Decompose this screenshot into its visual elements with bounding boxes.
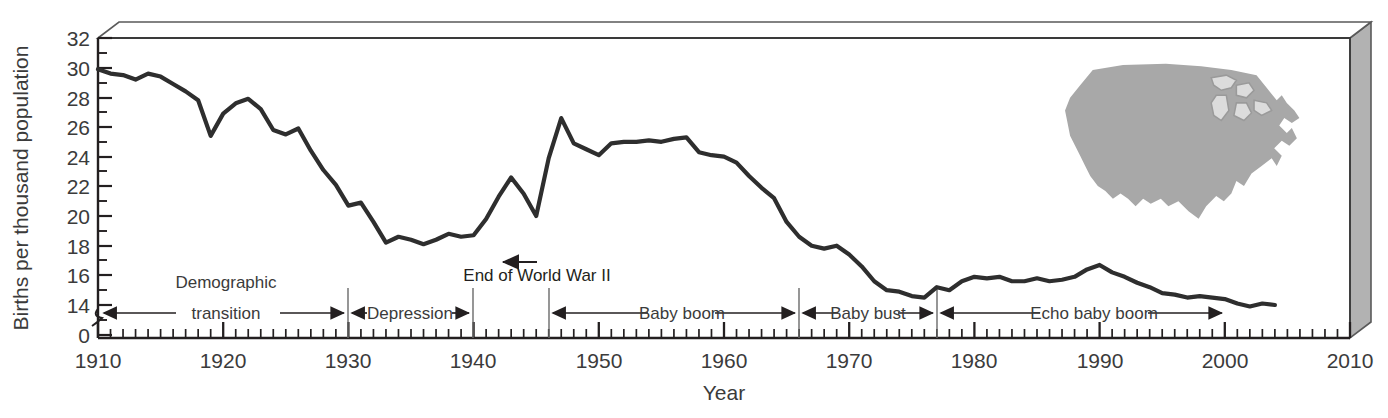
- era-label-depression: Depression: [367, 304, 453, 323]
- era-label-demographic-line2: transition: [192, 304, 261, 323]
- x-tick-label-2010: 2010: [1327, 349, 1374, 372]
- annotation-label-end-of-wwii: End of World War II: [463, 266, 610, 285]
- box-right-face: [1350, 22, 1371, 338]
- y-tick-label-16: 16: [67, 264, 90, 287]
- x-tick-label-1940: 1940: [450, 349, 497, 372]
- chart-figure: 32 30 28 26 24 22 20 18 16 14 0 Births p…: [0, 0, 1388, 418]
- x-tick-label-1980: 1980: [951, 349, 998, 372]
- y-tick-label-30: 30: [67, 57, 90, 80]
- y-axis-title: Births per thousand population: [9, 46, 32, 331]
- x-tick-label-1950: 1950: [576, 349, 623, 372]
- y-tick-label-0: 0: [78, 324, 90, 347]
- y-tick-label-28: 28: [67, 87, 90, 110]
- y-tick-label-26: 26: [67, 116, 90, 139]
- births-rate-line-chart: 32 30 28 26 24 22 20 18 16 14 0 Births p…: [0, 0, 1388, 418]
- era-label-echo-baby-boom: Echo baby boom: [1030, 304, 1158, 323]
- y-tick-label-20: 20: [67, 205, 90, 228]
- era-bracket-echo-baby-boom: Echo baby boom: [941, 304, 1222, 323]
- y-tick-label-32: 32: [67, 27, 90, 50]
- x-tick-label-1970: 1970: [826, 349, 873, 372]
- box-top-face: [98, 22, 1371, 38]
- era-bracket-baby-boom: Baby boom: [553, 304, 795, 323]
- annotation-end-of-wwii: End of World War II: [463, 262, 610, 285]
- x-axis-title: Year: [703, 381, 745, 404]
- era-label-baby-bust: Baby bust: [830, 304, 906, 323]
- y-tick-label-14: 14: [67, 294, 91, 317]
- y-tick-label-24: 24: [67, 146, 91, 169]
- x-tick-label-1920: 1920: [200, 349, 247, 372]
- y-axis: 32 30 28 26 24 22 20 18 16 14 0 Births p…: [9, 27, 112, 347]
- x-tick-label-1930: 1930: [325, 349, 372, 372]
- y-tick-label-18: 18: [67, 235, 90, 258]
- us-mainland-shape: [1065, 64, 1299, 219]
- era-bracket-baby-bust: Baby bust: [803, 304, 933, 323]
- y-tick-label-22: 22: [67, 175, 90, 198]
- x-tick-label-1990: 1990: [1077, 349, 1124, 372]
- era-bracket-depression: Depression: [352, 304, 469, 323]
- era-bracket-demographic-transition: Demographic transition: [104, 273, 344, 323]
- era-label-demographic-line1: Demographic: [175, 273, 277, 292]
- era-label-baby-boom: Baby boom: [639, 304, 725, 323]
- x-tick-label-1960: 1960: [701, 349, 748, 372]
- united-states-map-icon: [1065, 64, 1299, 219]
- x-tick-label-2000: 2000: [1202, 349, 1249, 372]
- x-tick-label-1910: 1910: [75, 349, 122, 372]
- x-axis: 1910 1920 1930 1940 1950 1960 1970 1980 …: [75, 322, 1374, 404]
